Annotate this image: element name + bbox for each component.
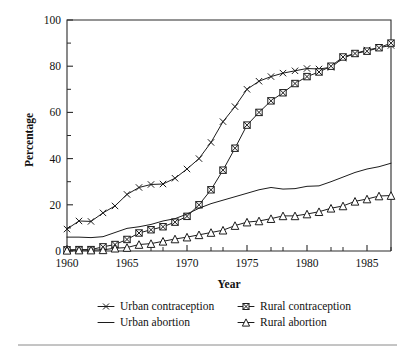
line-chart-canvas: 020406080100 196019651970197519801985 Pe… [0, 0, 415, 358]
legend-label: Urban contraception [120, 300, 214, 313]
x-tick-label: 1975 [236, 257, 259, 269]
legend-label: Urban abortion [120, 316, 190, 328]
y-tick-label: 100 [44, 14, 62, 26]
x-tick-label: 1960 [56, 257, 79, 269]
y-tick-label: 40 [50, 153, 62, 165]
y-axis-title: Percentage [23, 113, 36, 167]
legend-label: Rural abortion [260, 316, 327, 328]
chart-figure: 020406080100 196019651970197519801985 Pe… [0, 0, 415, 358]
legend-label: Rural contraception [260, 300, 351, 313]
x-tick-label: 1980 [296, 257, 319, 269]
y-tick-label: 80 [50, 60, 62, 72]
x-tick-label: 1970 [176, 257, 199, 269]
y-tick-label: 0 [55, 245, 61, 257]
x-tick-label: 1965 [116, 257, 139, 269]
y-tick-label: 60 [50, 106, 62, 118]
y-tick-label: 20 [50, 199, 62, 211]
x-axis-title: Year [218, 278, 241, 290]
x-tick-label: 1985 [356, 257, 379, 269]
